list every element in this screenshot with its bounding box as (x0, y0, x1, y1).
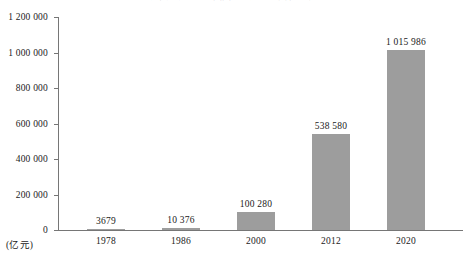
bar-chart: 改革开放以来我国国内生产总值变化情况 0 200 000 400 000 600… (0, 0, 463, 259)
bar-2020: 1 015 986 (387, 50, 425, 230)
y-axis-tick: 400 000 (54, 159, 58, 160)
y-axis-unit-label: (亿元) (6, 240, 33, 251)
y-axis-line (58, 17, 59, 231)
bar-value-label: 1 015 986 (386, 37, 426, 48)
bar-value-label: 538 580 (315, 121, 347, 132)
bar-1986: 10 376 (162, 228, 200, 230)
x-axis-label-2000: 2000 (246, 236, 266, 247)
y-axis-tick-label: 0 (43, 225, 48, 235)
y-axis-tick: 200 000 (54, 195, 58, 196)
y-axis-tick: 800 000 (54, 88, 58, 89)
bar-2000: 100 280 (237, 212, 275, 230)
bar-value-label: 3679 (96, 216, 116, 227)
y-axis-tick-label: 1 200 000 (8, 12, 48, 22)
bar-2012: 538 580 (312, 134, 350, 230)
plot-area: 0 200 000 400 000 600 000 800 000 1 000 … (58, 17, 463, 231)
y-axis-tick: 1 000 000 (54, 53, 58, 54)
y-axis-tick-label: 1 000 000 (8, 48, 48, 58)
y-axis-tick-label: 200 000 (16, 190, 48, 200)
y-axis-tick-label: 800 000 (16, 83, 48, 93)
y-axis-tick-label: 400 000 (16, 154, 48, 164)
y-axis-tick-label: 600 000 (16, 119, 48, 129)
bar-value-label: 10 376 (167, 215, 194, 226)
y-axis-tick: 1 200 000 (54, 17, 58, 18)
bar-1978: 3679 (87, 229, 125, 230)
x-axis-label-1986: 1986 (171, 236, 191, 247)
y-axis-tick: 600 000 (54, 124, 58, 125)
x-axis-line (58, 230, 463, 231)
x-axis-label-1978: 1978 (96, 236, 116, 247)
chart-title: 改革开放以来我国国内生产总值变化情况 (0, 0, 463, 3)
x-axis-label-2012: 2012 (321, 236, 341, 247)
y-axis-tick: 0 (54, 230, 58, 231)
bar-value-label: 100 280 (240, 199, 272, 210)
x-axis-label-2020: 2020 (396, 236, 416, 247)
